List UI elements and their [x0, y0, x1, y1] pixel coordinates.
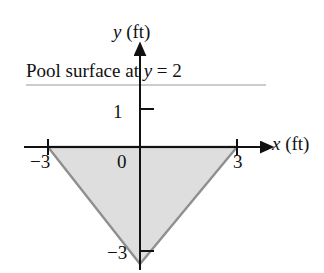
x-axis-label: x (ft) — [272, 134, 309, 153]
x-tick-label-neg3: −3 — [30, 152, 50, 171]
y-axis-label-unit: (ft) — [126, 21, 150, 42]
y-tick-label-1: 1 — [113, 102, 123, 121]
shaded-triangle-region — [48, 147, 237, 264]
pool-trough-cross-section-figure: y (ft) x (ft) Pool surface at y = 2 1 −3… — [0, 0, 324, 273]
origin-label: 0 — [117, 152, 127, 171]
y-tick-label-neg3: −3 — [107, 243, 127, 262]
x-tick-label-3: 3 — [233, 152, 243, 171]
x-axis-label-unit: (ft) — [285, 133, 309, 154]
pool-surface-annotation-suffix: = 2 — [152, 60, 182, 81]
pool-surface-annotation-variable: y — [144, 60, 152, 81]
pool-surface-annotation-prefix: Pool surface at — [26, 60, 144, 81]
y-axis-label: y (ft) — [113, 22, 150, 41]
pool-surface-annotation: Pool surface at y = 2 — [26, 61, 182, 80]
